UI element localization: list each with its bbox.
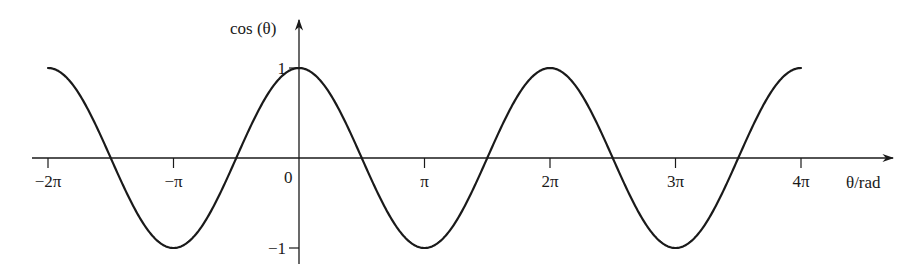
x-tick-label: 4π [792, 172, 810, 191]
y-axis-label: cos (θ) [230, 19, 276, 38]
x-axis-ticks: −2π−ππ2π3π4π [35, 158, 810, 191]
y-tick-label: −1 [268, 239, 286, 258]
x-tick-label: 2π [541, 172, 559, 191]
x-tick-label: π [420, 172, 429, 191]
x-tick-label: 3π [667, 172, 685, 191]
x-tick-label: −π [164, 172, 183, 191]
origin-label: 0 [284, 168, 293, 187]
x-axis-label: θ/rad [846, 173, 881, 192]
x-tick-label: −2π [35, 172, 62, 191]
cosine-chart: −2π−ππ2π3π4π 1−1 cos (θ) θ/rad 0 [0, 0, 923, 270]
